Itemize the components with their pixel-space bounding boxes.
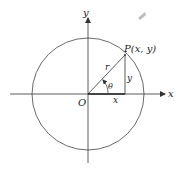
radius-label: r <box>105 62 110 72</box>
angle-label: θ <box>108 82 113 91</box>
point-p <box>124 54 126 56</box>
origin-label: O <box>78 97 86 108</box>
horizontal-leg-label: x <box>113 95 118 105</box>
radius-line <box>88 55 125 94</box>
scan-smudge <box>138 12 146 20</box>
x-axis-label: x <box>168 88 174 99</box>
vertical-leg-label: y <box>126 73 133 83</box>
unit-circle-diagram: y x O P(x, y) r θ y x <box>0 0 179 174</box>
y-axis-label: y <box>82 7 89 18</box>
point-label: P(x, y) <box>123 43 156 54</box>
